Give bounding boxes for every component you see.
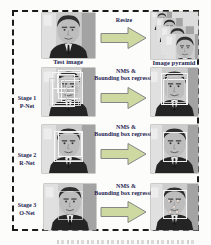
final-box [163,190,187,220]
candidate-box [66,85,81,102]
test-image-photo [42,13,95,58]
pnet-output-photo [151,68,198,116]
onet-output-photo [151,184,198,230]
stage-3-label: Stage 3 O-Net [13,202,41,217]
landmark-right-mouth [176,211,178,213]
refined-box [167,75,186,99]
stage-1-net: P-Net [13,103,41,111]
stage-3-net: O-Net [13,210,41,218]
rnet-output-photo [151,125,198,173]
stage-2-title: Stage 2 [13,152,41,160]
refined-box [163,132,187,162]
rnet-arrow [100,142,148,166]
cropped-caption-fragment [57,240,197,244]
landmark-nose [173,206,175,208]
stage-1-title: Stage 1 [13,95,41,103]
stage-2-net: R-Net [13,160,41,168]
mtcnn-pipeline-figure: Test image Resize Image pyramid Stage 1 … [0,0,211,245]
image-pyramid-caption: Image pyramid [144,59,204,66]
candidate-box [58,191,83,220]
pyramid-scale-1 [165,34,198,59]
landmark-left-eye [168,200,170,202]
test-image-caption: Test image [38,58,98,65]
stage-3-title: Stage 3 [13,202,41,210]
resize-arrow [100,26,148,50]
onet-arrow [100,200,148,224]
candidate-box [58,132,81,157]
pnet-arrow [100,86,148,110]
image-pyramid-photo [151,12,198,59]
resize-arrow-label: Resize [96,17,152,24]
landmark-right-eye [177,200,179,202]
stage-2-label: Stage 2 R-Net [13,152,41,167]
stage-1-label: Stage 1 P-Net [13,95,41,110]
